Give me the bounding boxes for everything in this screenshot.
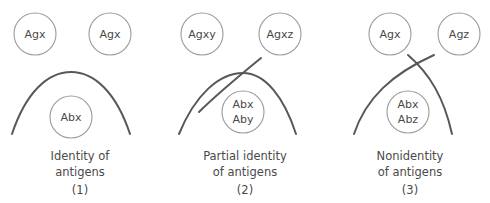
antibody-well-label-line-2: Abz <box>398 113 419 126</box>
panel-nonidentity: Agx Agz Abx Abz Nonidentity of antigens … <box>330 0 490 203</box>
caption-line-2: of antigens <box>165 164 325 180</box>
caption-line-2: of antigens <box>330 164 490 180</box>
antigen-well-right-label: Agz <box>449 28 470 41</box>
antigen-well-right-label: Agx <box>99 28 121 41</box>
panel-2-diagram: Agxy Agxz Abx Aby <box>165 0 325 150</box>
panel-partial-identity: Agxy Agxz Abx Aby Partial identity of an… <box>165 0 325 203</box>
panel-1-diagram: Agx Agx Abx <box>0 0 160 150</box>
panel-number: (2) <box>165 182 325 198</box>
panel-identity: Agx Agx Abx Identity of antigens (1) <box>0 0 160 203</box>
immunodiffusion-figure: Agx Agx Abx Identity of antigens (1) Agx… <box>0 0 490 203</box>
panel-number: (3) <box>330 182 490 198</box>
panel-number: (1) <box>0 182 160 198</box>
antigen-well-right-label: Agxz <box>267 28 294 41</box>
antibody-well-label-line-2: Aby <box>232 113 254 126</box>
panel-2-caption: Partial identity of antigens (2) <box>165 148 325 198</box>
caption-line-1: Nonidentity <box>330 148 490 164</box>
caption-line-1: Identity of <box>0 148 160 164</box>
panel-3-diagram: Agx Agz Abx Abz <box>330 0 490 150</box>
antigen-well-left-label: Agxy <box>188 28 216 41</box>
precipitin-arc <box>12 72 130 134</box>
precipitin-arc-left <box>354 55 434 134</box>
caption-line-2: antigens <box>0 164 160 180</box>
caption-line-1: Partial identity <box>165 148 325 164</box>
antigen-well-left-label: Agx <box>24 28 46 41</box>
antigen-well-left-label: Agx <box>379 28 401 41</box>
antibody-well-label: Abx <box>60 111 82 124</box>
panel-1-caption: Identity of antigens (1) <box>0 148 160 198</box>
antibody-well-label-line-1: Abx <box>232 98 254 111</box>
panel-3-caption: Nonidentity of antigens (3) <box>330 148 490 198</box>
antibody-well-label-line-1: Abx <box>397 98 419 111</box>
